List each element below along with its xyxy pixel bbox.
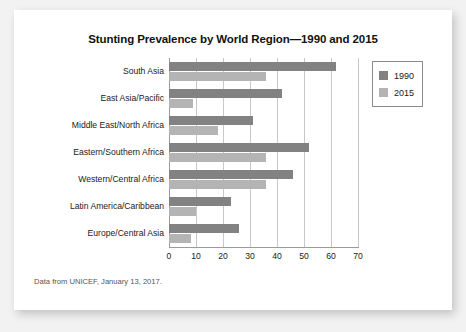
legend-label-1990: 1990 <box>394 71 414 81</box>
legend-swatch-2015-icon <box>379 88 388 97</box>
bar-group: Western/Central Africa <box>169 166 358 193</box>
source-note: Data from UNICEF, January 13, 2017. <box>34 277 162 286</box>
bar-2015 <box>169 153 266 162</box>
bar-group: East Asia/Pacific <box>169 85 358 112</box>
category-label: Western/Central Africa <box>14 166 164 193</box>
x-tick-label: 50 <box>289 251 319 261</box>
bar-2015 <box>169 72 266 81</box>
bar-group: Latin America/Caribbean <box>169 193 358 220</box>
bar-2015 <box>169 234 191 243</box>
bar-group: Europe/Central Asia <box>169 220 358 247</box>
x-tick-label: 10 <box>181 251 211 261</box>
category-label: Middle East/North Africa <box>14 112 164 139</box>
category-label: Latin America/Caribbean <box>14 193 164 220</box>
bar-group: Middle East/North Africa <box>169 112 358 139</box>
bar-1990 <box>169 224 239 233</box>
legend-swatch-1990-icon <box>379 71 388 80</box>
bar-1990 <box>169 170 293 179</box>
x-tick-label: 60 <box>316 251 346 261</box>
bar-2015 <box>169 99 193 108</box>
category-label: East Asia/Pacific <box>14 85 164 112</box>
legend-item-1990: 1990 <box>379 67 414 84</box>
bar-1990 <box>169 116 253 125</box>
bar-2015 <box>169 207 196 216</box>
category-label: South Asia <box>14 58 164 85</box>
legend-label-2015: 2015 <box>394 88 414 98</box>
gridline-70 <box>358 58 359 247</box>
category-label: Europe/Central Asia <box>14 220 164 247</box>
category-label: Eastern/Southern Africa <box>14 139 164 166</box>
chart-title: Stunting Prevalence by World Region—1990… <box>14 33 452 45</box>
x-tick-label: 0 <box>154 251 184 261</box>
x-axis-line <box>169 247 359 248</box>
bar-1990 <box>169 143 309 152</box>
bar-1990 <box>169 89 282 98</box>
plot-area: South AsiaEast Asia/PacificMiddle East/N… <box>169 58 358 247</box>
x-tick-label: 30 <box>235 251 265 261</box>
bar-1990 <box>169 197 231 206</box>
chart-page: Stunting Prevalence by World Region—1990… <box>14 10 452 310</box>
x-tick-label: 70 <box>343 251 373 261</box>
chart-legend: 1990 2015 <box>372 61 423 107</box>
bar-group: Eastern/Southern Africa <box>169 139 358 166</box>
x-tick-label: 20 <box>208 251 238 261</box>
bar-1990 <box>169 62 336 71</box>
x-tick-label: 40 <box>262 251 292 261</box>
legend-item-2015: 2015 <box>379 84 414 101</box>
bar-2015 <box>169 126 218 135</box>
bar-2015 <box>169 180 266 189</box>
bar-group: South Asia <box>169 58 358 85</box>
